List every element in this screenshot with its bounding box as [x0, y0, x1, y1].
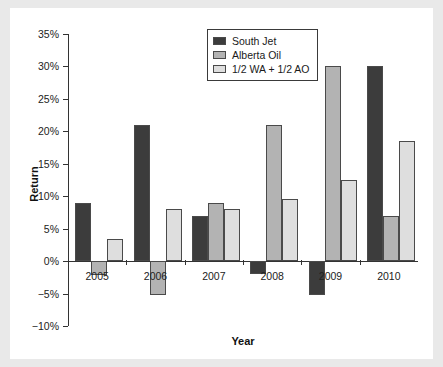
bar — [266, 125, 282, 261]
bar-group — [134, 34, 182, 326]
y-tick-mark — [63, 66, 68, 67]
bar — [192, 216, 208, 261]
x-tick-mark — [126, 260, 127, 265]
y-tick-mark — [63, 196, 68, 197]
y-tick: 20% — [68, 131, 69, 132]
x-tick-mark — [301, 260, 302, 265]
y-tick-label: 30% — [38, 60, 59, 72]
y-tick-label: 20% — [38, 125, 59, 137]
y-tick-label: 15% — [38, 158, 59, 170]
legend-item: Alberta Oil — [213, 48, 310, 62]
bar — [325, 66, 341, 261]
x-tick-label: 2007 — [202, 270, 225, 282]
x-tick-label: 2006 — [144, 270, 167, 282]
y-tick: 35% — [68, 34, 69, 35]
y-tick-label: −10% — [32, 320, 59, 332]
y-tick-mark — [63, 326, 68, 327]
bar — [383, 216, 399, 261]
legend-label: Alberta Oil — [232, 49, 281, 61]
y-tick-mark — [63, 131, 68, 132]
bar — [166, 209, 182, 261]
y-tick-label: 0% — [44, 255, 59, 267]
x-tick-mark — [243, 260, 244, 265]
x-tick-label: 2005 — [85, 270, 108, 282]
y-tick: 25% — [68, 99, 69, 100]
x-axis-label: Year — [68, 335, 418, 347]
chart-figure: Return 35%30%25%20%15%10%5%0%−5%−10% 200… — [10, 8, 433, 359]
y-tick: −10% — [68, 326, 69, 327]
y-tick-mark — [63, 99, 68, 100]
bar — [341, 180, 357, 261]
y-tick-label: 10% — [38, 190, 59, 202]
y-tick-label: 5% — [44, 223, 59, 235]
legend-item: 1/2 WA + 1/2 AO — [213, 62, 310, 76]
y-tick-mark — [63, 229, 68, 230]
bar — [367, 66, 383, 261]
x-tick-label: 2010 — [377, 270, 400, 282]
legend-label: 1/2 WA + 1/2 AO — [232, 63, 310, 75]
bar-group — [367, 34, 415, 326]
bar — [107, 239, 123, 261]
y-tick-label: 35% — [38, 28, 59, 40]
y-tick: −5% — [68, 294, 69, 295]
chart-legend: South JetAlberta Oil1/2 WA + 1/2 AO — [207, 29, 318, 81]
y-axis-spine — [68, 34, 69, 326]
legend-swatch-icon — [213, 65, 226, 73]
y-tick: 10% — [68, 196, 69, 197]
bar — [399, 141, 415, 261]
y-tick: 30% — [68, 66, 69, 67]
y-tick-mark — [63, 164, 68, 165]
y-tick-label: −5% — [38, 288, 59, 300]
bar — [282, 199, 298, 261]
x-tick-label: 2008 — [260, 270, 283, 282]
legend-swatch-icon — [213, 37, 226, 45]
x-tick-label: 2009 — [319, 270, 342, 282]
bar — [224, 209, 240, 261]
bar-group — [75, 34, 123, 326]
bar — [134, 125, 150, 261]
y-tick-mark — [63, 34, 68, 35]
legend-item: South Jet — [213, 34, 310, 48]
y-tick: 15% — [68, 164, 69, 165]
x-tick-mark — [185, 260, 186, 265]
y-tick-label: 25% — [38, 93, 59, 105]
x-tick-mark — [68, 260, 69, 265]
legend-swatch-icon — [213, 51, 226, 59]
y-tick: 5% — [68, 229, 69, 230]
x-tick-mark — [360, 260, 361, 265]
bar — [208, 203, 224, 261]
bar — [75, 203, 91, 261]
y-tick-mark — [63, 294, 68, 295]
legend-label: South Jet — [232, 35, 276, 47]
